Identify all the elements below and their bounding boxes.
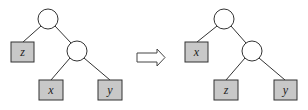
edge-inner-to-left-leaf xyxy=(51,58,70,80)
edge-root-to-inner-node xyxy=(55,26,71,43)
edge-root-to-inner-node xyxy=(231,26,246,43)
tree-transformation-diagram: z x y x z y xyxy=(0,0,308,110)
root-node xyxy=(214,9,234,29)
edge-inner-to-right-leaf xyxy=(259,58,285,80)
edge-inner-to-right-leaf xyxy=(84,58,110,80)
root-node xyxy=(38,9,58,29)
leaf-label: y xyxy=(106,83,113,97)
leaf-label: x xyxy=(193,45,200,59)
transform-arrow-icon xyxy=(137,49,165,66)
edge-inner-to-left-leaf xyxy=(226,58,245,80)
inner-node xyxy=(242,41,262,61)
leaf-label: z xyxy=(19,45,25,59)
edge-root-to-left-leaf xyxy=(23,26,41,42)
inner-node xyxy=(67,41,87,61)
leaf-label: z xyxy=(223,83,229,97)
after-tree: x z y xyxy=(185,9,297,100)
before-tree: z x y xyxy=(11,9,122,100)
leaf-label: x xyxy=(47,83,54,97)
edge-root-to-left-leaf xyxy=(197,26,217,42)
leaf-label: y xyxy=(282,83,289,97)
